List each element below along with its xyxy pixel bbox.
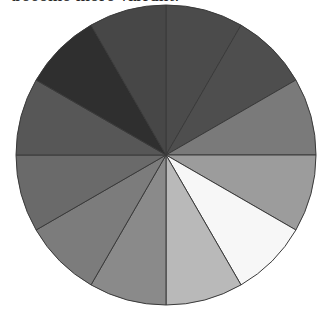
pie-slices xyxy=(16,5,316,305)
pie-chart xyxy=(0,0,326,314)
